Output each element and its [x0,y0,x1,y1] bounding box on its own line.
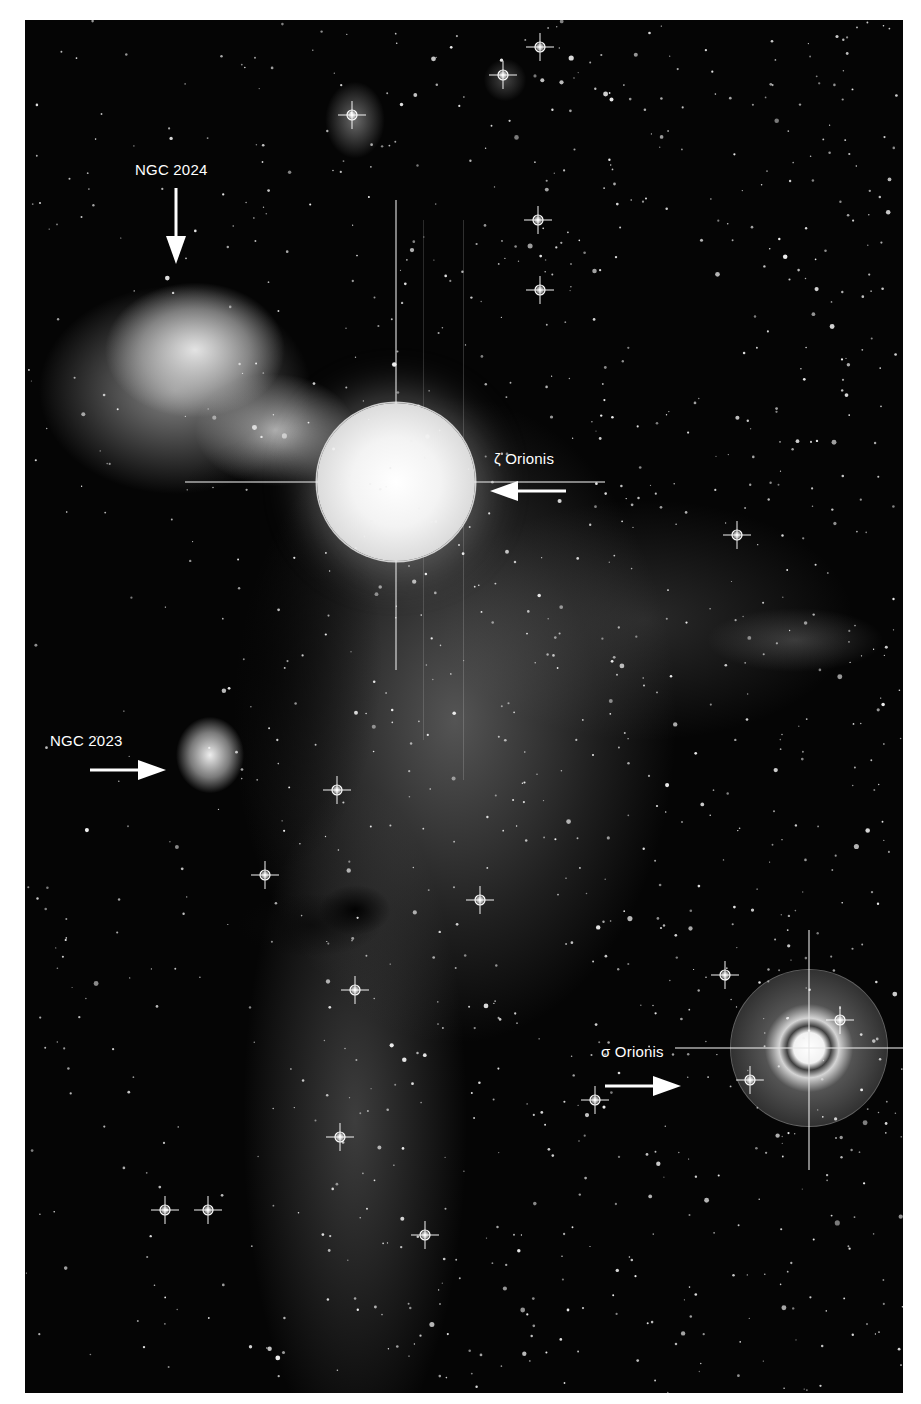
arrow-down-icon [165,186,187,266]
star-field [25,20,903,1393]
label-zeta-orionis: ζ Orionis [494,450,554,467]
label-ngc2023: NGC 2023 [50,732,122,749]
label-ngc2024: NGC 2024 [135,161,207,178]
label-sigma-orionis: σ Orionis [601,1043,664,1060]
astronomy-photo [25,20,903,1393]
arrow-right-icon [88,759,168,781]
arrow-right-icon [603,1075,683,1097]
arrow-left-icon [488,480,568,502]
